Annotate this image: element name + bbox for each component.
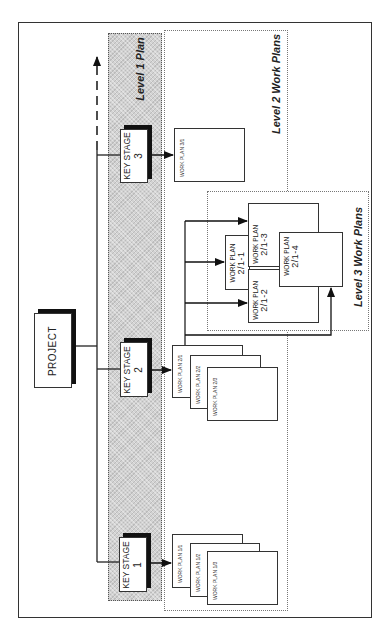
work-plan-1-2-label: WORK PLAN 1/2 bbox=[195, 554, 201, 592]
work-plan-2-1-4-code: 2/1-4 bbox=[290, 237, 300, 276]
project-box: PROJECT bbox=[34, 313, 72, 388]
work-plan-2-1-4-label: WORK PLAN 2/1-4 bbox=[283, 237, 301, 276]
level2-label: Level 2 Work Plans bbox=[270, 24, 284, 144]
work-plan-3-1: WORK PLAN 3/1 bbox=[174, 128, 245, 182]
work-plan-2-1-2-code: 2/1-2 bbox=[259, 281, 269, 320]
key-stage-3-number: 3 bbox=[133, 132, 145, 179]
work-plan-2-1-4-title: WORK PLAN bbox=[283, 237, 290, 276]
key-stage-2-label: KEY STAGE 2 bbox=[123, 346, 144, 393]
project-label: PROJECT bbox=[47, 325, 59, 375]
key-stage-2-number: 2 bbox=[133, 346, 145, 393]
level1-label: Level 1 Plan bbox=[134, 29, 148, 109]
work-plan-2-1-3-title: WORK PLAN bbox=[252, 225, 259, 264]
work-plan-2-3-label: WORK PLAN 2/3 bbox=[212, 378, 218, 416]
work-plan-2-1-4: WORK PLAN 2/1-4 bbox=[279, 232, 343, 287]
work-plan-2-2-label: WORK PLAN 2/2 bbox=[195, 366, 201, 404]
work-plan-hierarchy-diagram: Level 1 Plan Level 2 Work Plans Level 3 … bbox=[0, 0, 389, 640]
key-stage-1-title: KEY STAGE bbox=[121, 541, 131, 588]
key-stage-2-box: KEY STAGE 2 bbox=[120, 342, 148, 397]
work-plan-2-1-1: WORK PLAN 2/1-1 bbox=[225, 235, 250, 290]
key-stage-1-box: KEY STAGE 1 bbox=[119, 537, 147, 592]
work-plan-1-3-label: WORK PLAN 1/3 bbox=[212, 562, 218, 600]
work-plan-1-1-label: WORK PLAN 1/1 bbox=[177, 545, 183, 583]
work-plan-2-1-2-label: WORK PLAN 2/1-2 bbox=[252, 281, 270, 320]
work-plan-2-1-1-code: 2/1-1 bbox=[236, 243, 246, 282]
key-stage-1-label: KEY STAGE 1 bbox=[122, 541, 143, 588]
level3-label: Level 3 Work Plans bbox=[352, 202, 366, 312]
key-stage-3-title: KEY STAGE bbox=[122, 132, 132, 179]
work-plan-2-1-1-title: WORK PLAN bbox=[229, 243, 236, 282]
work-plan-2-3: WORK PLAN 2/3 bbox=[207, 367, 278, 421]
key-stage-3-label: KEY STAGE 3 bbox=[123, 132, 144, 179]
key-stage-1-number: 1 bbox=[132, 541, 144, 588]
work-plan-1-3: WORK PLAN 1/3 bbox=[207, 551, 278, 605]
work-plan-2-1-3-code: 2/1-3 bbox=[259, 225, 269, 264]
work-plan-3-1-label: WORK PLAN 3/1 bbox=[179, 139, 185, 177]
key-stage-3-box: KEY STAGE 3 bbox=[120, 129, 148, 183]
key-stage-2-title: KEY STAGE bbox=[122, 346, 132, 393]
work-plan-2-1-label: WORK PLAN 2/1 bbox=[177, 355, 183, 393]
work-plan-2-1-1-label: WORK PLAN 2/1-1 bbox=[229, 243, 247, 282]
level1-region bbox=[108, 33, 162, 601]
work-plan-2-1-2-title: WORK PLAN bbox=[252, 281, 259, 320]
work-plan-2-1-3-label: WORK PLAN 2/1-3 bbox=[252, 225, 270, 264]
